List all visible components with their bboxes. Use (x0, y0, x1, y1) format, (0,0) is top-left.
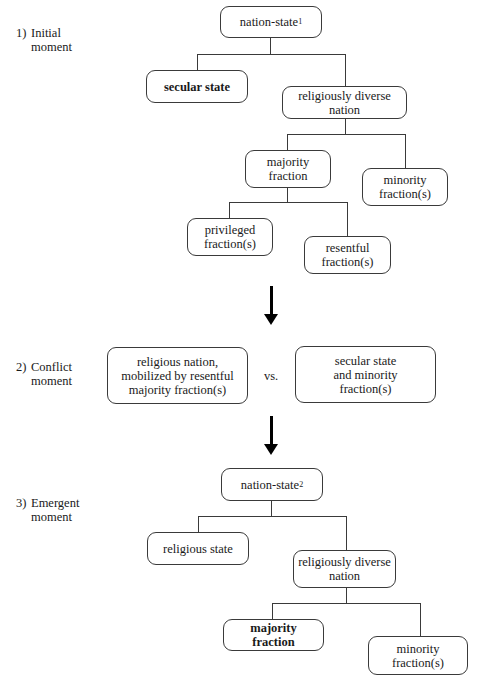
connector (272, 603, 421, 604)
connector (229, 202, 348, 203)
stage-title: Emergent (31, 496, 79, 510)
node-text: privileged (205, 223, 256, 237)
connector (229, 202, 230, 218)
stage-subtitle: moment (16, 374, 72, 388)
connector (271, 500, 272, 516)
connector (197, 54, 198, 70)
node-text: religiously diverse nation (287, 89, 402, 117)
connector (287, 188, 288, 202)
node-text: nation-state (241, 478, 299, 492)
connector (405, 134, 406, 168)
node-minority-fraction-2: minority fraction(s) (368, 636, 468, 675)
connector (346, 588, 347, 603)
node-text: resentful (326, 241, 370, 255)
node-text: religiously diverse (298, 555, 391, 569)
stage-subtitle: moment (16, 510, 79, 524)
connector (287, 134, 288, 150)
connector (198, 516, 347, 517)
versus-label: vs. (264, 369, 278, 384)
node-text: majority fraction (228, 621, 319, 649)
node-nation-state-2: nation-state2 (221, 468, 323, 501)
stage-label-emergent: 3)Emergent moment (16, 496, 79, 524)
node-text: minority (396, 642, 439, 656)
connector (270, 37, 271, 54)
node-religiously-diverse-nation: religiously diverse nation (282, 86, 407, 119)
node-secular-state-minority: secular state and minority fraction(s) (295, 346, 436, 403)
node-text: fraction (269, 169, 308, 183)
stage-label-initial: 1)Initial moment (16, 26, 72, 54)
node-text: majority fraction(s) (129, 383, 227, 397)
node-minority-fraction: minority fraction(s) (362, 168, 448, 206)
node-text: secular state (164, 80, 230, 94)
node-text: nation-state (240, 15, 298, 29)
node-text: fraction(s) (379, 187, 431, 201)
stage-number: 2) (16, 360, 31, 374)
node-text: and minority (333, 368, 397, 382)
node-majority-fraction: majority fraction (245, 150, 331, 188)
node-text: fraction(s) (339, 382, 391, 396)
stage-subtitle: moment (16, 40, 72, 54)
node-privileged-fraction: privileged fraction(s) (187, 218, 273, 256)
node-text: majority (267, 155, 309, 169)
node-text: fraction(s) (321, 255, 373, 269)
connector (272, 603, 273, 619)
node-text: fraction(s) (392, 656, 444, 670)
node-text: religious nation, (137, 355, 218, 369)
connector (420, 603, 421, 636)
connector (345, 119, 346, 134)
node-subscript: 2 (299, 478, 303, 492)
connector (346, 516, 347, 550)
stage-title: Conflict (31, 360, 72, 374)
node-religiously-diverse-nation-2: religiously diverse nation (293, 550, 396, 588)
stage-label-conflict: 2)Conflict moment (16, 360, 72, 388)
stage-number: 3) (16, 496, 31, 510)
node-religious-nation: religious nation, mobilized by resentful… (107, 347, 248, 404)
node-secular-state: secular state (146, 70, 248, 103)
node-text: secular state (335, 354, 396, 368)
connector (347, 202, 348, 236)
node-resentful-fraction: resentful fraction(s) (304, 236, 391, 274)
connector (198, 516, 199, 532)
node-text: mobilized by resentful (121, 369, 233, 383)
connector (345, 54, 346, 86)
node-majority-fraction-2: majority fraction (223, 619, 324, 651)
stage-number: 1) (16, 26, 31, 40)
node-nation-state-1: nation-state1 (220, 6, 322, 38)
node-subscript: 1 (298, 15, 302, 29)
stage-title: Initial (31, 26, 61, 40)
node-text: religious state (163, 542, 233, 556)
connector (287, 134, 406, 135)
node-text: nation (329, 569, 360, 583)
node-text: fraction(s) (204, 237, 256, 251)
node-religious-state: religious state (147, 532, 249, 565)
node-text: minority (383, 173, 426, 187)
connector (197, 54, 346, 55)
